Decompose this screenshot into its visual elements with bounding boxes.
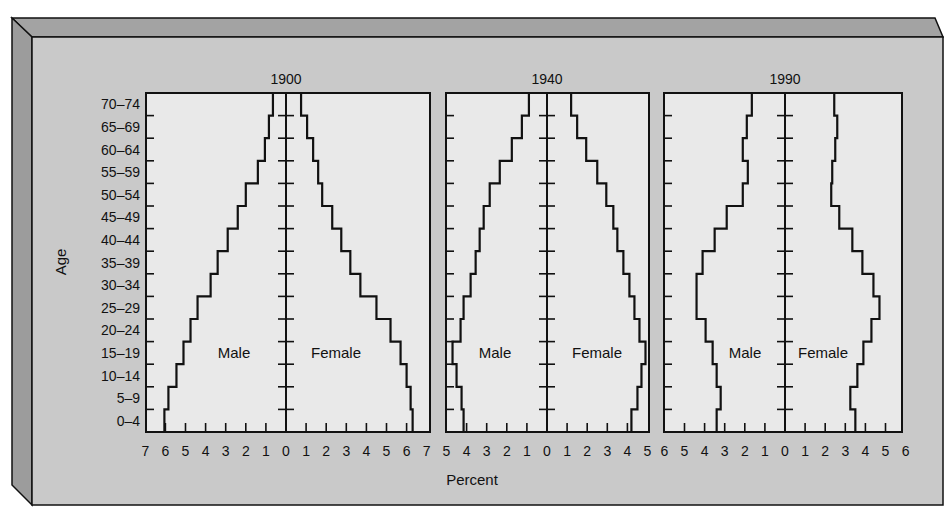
panel-1990: 19906543210123456MaleFemale bbox=[661, 71, 910, 459]
panel-title: 1940 bbox=[531, 71, 562, 87]
percent-tick-label: 2 bbox=[322, 443, 330, 459]
panel-title: 1900 bbox=[270, 71, 301, 87]
percent-tick-label: 0 bbox=[282, 443, 290, 459]
percent-tick-label: 1 bbox=[302, 443, 310, 459]
percent-tick-label: 0 bbox=[543, 443, 551, 459]
plot-area bbox=[664, 93, 902, 432]
plot-area bbox=[146, 93, 430, 432]
percent-tick-label: 6 bbox=[902, 443, 910, 459]
percent-tick-label: 6 bbox=[162, 443, 170, 459]
percent-tick-label: 3 bbox=[603, 443, 611, 459]
age-label: 45–49 bbox=[101, 209, 140, 225]
age-label: 20–24 bbox=[101, 322, 140, 338]
percent-tick-label: 1 bbox=[761, 443, 769, 459]
percent-tick-label: 3 bbox=[342, 443, 350, 459]
age-label: 50–54 bbox=[101, 187, 140, 203]
age-label: 70–74 bbox=[101, 96, 140, 112]
percent-tick-label: 1 bbox=[563, 443, 571, 459]
age-label: 60–64 bbox=[101, 142, 140, 158]
percent-tick-label: 0 bbox=[781, 443, 789, 459]
age-label: 65–69 bbox=[101, 119, 140, 135]
age-label: 0–4 bbox=[117, 413, 141, 429]
female-label: Female bbox=[311, 344, 361, 361]
female-label: Female bbox=[572, 344, 622, 361]
age-label: 15–19 bbox=[101, 345, 140, 361]
panel-1940: 194054321012345MaleFemale bbox=[443, 71, 652, 459]
percent-tick-label: 5 bbox=[882, 443, 890, 459]
percent-tick-label: 3 bbox=[222, 443, 230, 459]
frame-left-bevel bbox=[12, 18, 32, 505]
percent-tick-label: 1 bbox=[523, 443, 531, 459]
age-category-labels: 0–45–910–1415–1920–2425–2930–3435–3940–4… bbox=[101, 96, 140, 428]
x-axis-title: Percent bbox=[446, 471, 499, 488]
percent-tick-label: 5 bbox=[383, 443, 391, 459]
percent-tick-label: 3 bbox=[721, 443, 729, 459]
frame-top-bevel bbox=[12, 18, 943, 37]
male-label: Male bbox=[218, 344, 251, 361]
percent-tick-label: 5 bbox=[443, 443, 451, 459]
male-label: Male bbox=[729, 344, 762, 361]
age-label: 30–34 bbox=[101, 277, 140, 293]
percent-tick-label: 2 bbox=[583, 443, 591, 459]
panel-title: 1990 bbox=[769, 71, 800, 87]
percent-tick-label: 7 bbox=[141, 443, 149, 459]
age-label: 40–44 bbox=[101, 232, 140, 248]
age-label: 5–9 bbox=[117, 390, 141, 406]
percent-tick-label: 4 bbox=[862, 443, 870, 459]
percent-tick-label: 2 bbox=[503, 443, 511, 459]
percent-tick-label: 5 bbox=[644, 443, 652, 459]
percent-tick-label: 4 bbox=[701, 443, 709, 459]
percent-tick-label: 2 bbox=[821, 443, 829, 459]
panel-1900: 1900765432101234567MaleFemale bbox=[141, 71, 430, 459]
percent-tick-label: 5 bbox=[681, 443, 689, 459]
percent-tick-label: 4 bbox=[363, 443, 371, 459]
percent-tick-label: 4 bbox=[202, 443, 210, 459]
age-label: 55–59 bbox=[101, 164, 140, 180]
percent-tick-label: 1 bbox=[262, 443, 270, 459]
male-label: Male bbox=[479, 344, 512, 361]
percent-tick-label: 6 bbox=[661, 443, 669, 459]
percent-tick-label: 2 bbox=[741, 443, 749, 459]
percent-tick-label: 7 bbox=[423, 443, 431, 459]
percent-tick-label: 5 bbox=[182, 443, 190, 459]
female-label: Female bbox=[798, 344, 848, 361]
percent-tick-label: 4 bbox=[624, 443, 632, 459]
y-axis-title: Age bbox=[52, 249, 69, 276]
percent-tick-label: 1 bbox=[801, 443, 809, 459]
percent-tick-label: 3 bbox=[841, 443, 849, 459]
age-label: 25–29 bbox=[101, 300, 140, 316]
percent-tick-label: 3 bbox=[483, 443, 491, 459]
population-pyramid-figure: Age 0–45–910–1415–1920–2425–2930–3435–39… bbox=[0, 0, 945, 515]
percent-tick-label: 4 bbox=[463, 443, 471, 459]
age-label: 35–39 bbox=[101, 255, 140, 271]
age-label: 10–14 bbox=[101, 368, 140, 384]
percent-tick-label: 2 bbox=[242, 443, 250, 459]
percent-tick-label: 6 bbox=[403, 443, 411, 459]
chart-canvas: Age 0–45–910–1415–1920–2425–2930–3435–39… bbox=[0, 0, 945, 515]
